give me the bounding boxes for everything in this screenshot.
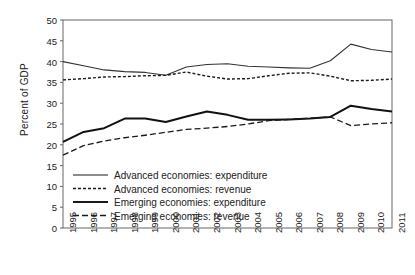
chart-legend: Advanced economies: expenditureAdvanced … [0,0,415,275]
legend-item-label: Advanced economies: revenue [114,183,251,194]
legend-item-label: Emerging economies: revenue [114,210,250,221]
chart-figure: Percent of GDP 05101520253035404550 1995… [0,0,415,275]
legend-item-label: Emerging economies: expenditure [114,197,266,208]
legend-item-label: Advanced economies: expenditure [114,170,267,181]
